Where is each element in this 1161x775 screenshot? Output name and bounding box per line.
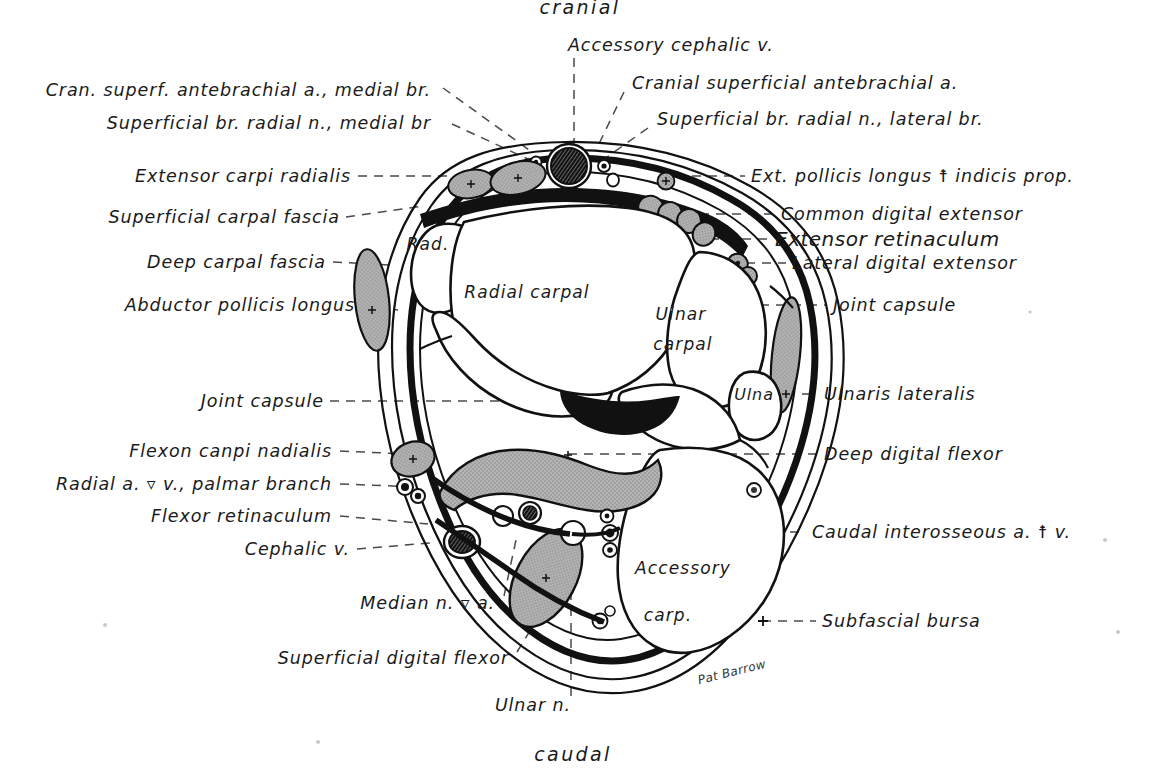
subfascial-bursa: [758, 616, 768, 626]
abductor-pollicis-longus: [350, 248, 394, 353]
label-joint-capsule-right: Joint capsule: [833, 297, 956, 315]
label-extensor-carpi-radialis: Extensor carpi radialis: [135, 168, 351, 186]
label-superficial-digital-flexor: Superficial digital flexor: [278, 650, 509, 668]
label-extensor-retinaculum: Extensor retinaculum: [775, 229, 1000, 249]
label-ulnaris-lateralis: Ulnaris lateralis: [824, 386, 976, 404]
label-cran-superf-antebrachial-a-medial-br: Cran. superf. antebrachial a., medial br…: [46, 82, 431, 100]
label-joint-capsule-left: Joint capsule: [201, 393, 324, 411]
radial-artery-vein-palmar-branch: [397, 479, 425, 503]
label-superficial-br-radial-n-lateral-br: Superficial br. radial n., lateral br.: [657, 111, 984, 129]
label-deep-carpal-fascia: Deep carpal fascia: [147, 254, 326, 272]
label-radial-carpal: Radial carpal: [464, 284, 589, 301]
label-subfascial-bursa: Subfascial bursa: [822, 613, 981, 631]
label-cranial-superficial-antebrachial-a: Cranial superficial antebrachial a.: [632, 75, 958, 93]
label-accessory-cephalic-v: Accessory cephalic v.: [568, 37, 774, 55]
label-radius: Rad.: [407, 236, 450, 253]
label-deep-digital-flexor: Deep digital flexor: [824, 446, 1003, 464]
label-flexor-carpi-radialis: Flexon canpi nadialis: [129, 443, 332, 461]
figure-canvas: cranial caudal Cran. superf. antebrachia…: [0, 0, 1161, 775]
label-common-digital-extensor: Common digital extensor: [781, 206, 1023, 224]
lateral-small-vessel: [747, 483, 761, 497]
orientation-label-cranial: cranial: [540, 0, 621, 17]
label-caudal-interosseous-a-v: Caudal interosseous a. ☨ v.: [812, 524, 1071, 542]
label-radial-a-v-palmar-branch: Radial a. ▿ v., palmar branch: [56, 476, 332, 494]
label-abductor-pollicis-longus: Abductor pollicis longus: [125, 297, 355, 315]
label-median-n-a: Median n. ▿ a.: [360, 595, 495, 613]
label-superficial-carpal-fascia: Superficial carpal fascia: [109, 209, 340, 227]
label-ulnar-n: Ulnar n.: [495, 697, 571, 715]
label-ulnar-carpal-line2: carpal: [653, 336, 712, 353]
label-lateral-digital-extensor: Lateral digital extensor: [792, 255, 1017, 273]
label-accessory-carpal-line2: carp.: [644, 607, 692, 624]
label-ulnar-carpal-line1: Ulnar: [656, 306, 707, 323]
label-flexor-retinaculum: Flexor retinaculum: [151, 508, 332, 526]
label-accessory-carpal-line1: Accessory: [635, 560, 731, 577]
orientation-label-caudal: caudal: [534, 745, 612, 764]
label-superficial-br-radial-n-medial-br: Superficial br. radial n., medial br: [107, 115, 431, 133]
label-ext-pollicis-longus-indicis-prop: Ext. pollicis longus ☨ indicis prop.: [751, 168, 1074, 186]
label-cephalic-v: Cephalic v.: [245, 541, 350, 559]
label-ulna: Ulna: [734, 387, 774, 403]
